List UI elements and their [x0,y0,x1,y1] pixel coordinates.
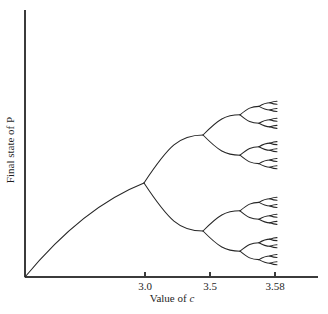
x-tick-label-1: 3.5 [203,280,217,292]
branch-depth-5 [270,118,277,119]
branch-depth-5 [270,256,277,257]
x-tick-label-2: 3.58 [265,280,285,292]
branch-depth-3 [240,211,259,219]
x-axis-title: Value of c [150,292,195,304]
branch-depth-2 [203,211,240,231]
branch-depth-5 [270,223,277,225]
branch-depth-4 [259,239,270,243]
branch-depth-5 [270,150,277,151]
branch-depth-4 [259,143,270,147]
branch-depth-5 [270,204,277,205]
branch-depth-5 [270,160,277,161]
branch-depth-5 [270,120,277,121]
branch-depth-5 [270,149,277,150]
branch-depth-5 [270,108,277,109]
branch-depth-3 [240,106,259,114]
bifurcation-diagram-svg: 3.03.53.58Value of cFinal state of P [0,0,328,314]
branch-depth-5 [270,142,277,144]
branch-depth-4 [259,120,270,124]
branch-depth-5 [270,263,277,265]
branch-depth-5 [270,125,277,126]
branch-depth-2 [203,231,240,251]
branch-depth-4 [259,216,270,220]
branch-depth-4 [259,202,270,206]
branch-depth-3 [240,251,259,259]
branch-depth-5 [270,206,277,207]
branch-depth-4 [259,219,270,223]
branch-depth-5 [270,245,277,246]
branch-depth-3 [240,202,259,210]
branch-depth-5 [270,239,277,240]
branch-depth-5 [270,166,277,167]
branch-depth-3 [240,115,259,123]
x-tick-label-0: 3.0 [138,280,152,292]
branch-depth-5 [270,246,277,247]
branch-depth-4 [259,103,270,107]
branch-depth-5 [270,214,277,215]
y-axis-title: Final state of P [4,117,16,183]
branch-depth-3 [240,243,259,251]
branch-depth-3 [240,147,259,155]
branch-depth-5 [270,262,277,263]
branch-depth-5 [270,221,277,222]
branch-depth-5 [270,238,277,240]
branch-depth-4 [259,160,270,164]
bifurcation-figure: 3.03.53.58Value of cFinal state of P [0,0,328,314]
axes-group [25,10,318,277]
branch-depth-5 [270,197,277,199]
branch-depth-5 [270,255,277,256]
branch-depth-5 [270,159,277,160]
branch-depth-4 [259,256,270,260]
branch-depth-1 [144,183,203,231]
branch-depth-5 [270,127,277,129]
branch-depth-4 [259,199,270,203]
branch-depth-4 [259,147,270,151]
branch-depth-4 [259,164,270,168]
branch-depth-4 [259,243,270,247]
branch-depth-5 [270,167,277,169]
branch-depth-4 [259,260,270,264]
branch-depth-2 [203,135,240,155]
branch-curves-group [25,101,277,277]
branch-depth-5 [270,110,277,111]
branch-depth-4 [259,123,270,127]
branch-depth-5 [270,103,277,104]
branch-depth-5 [270,216,277,217]
branch-depth-3 [240,155,259,163]
initial-fixed-point-curve [25,183,144,277]
branch-depth-1 [144,135,203,183]
branch-depth-5 [270,199,277,200]
branch-depth-5 [270,143,277,144]
branch-depth-4 [259,106,270,110]
branch-depth-5 [270,101,277,103]
branch-depth-2 [203,115,240,135]
